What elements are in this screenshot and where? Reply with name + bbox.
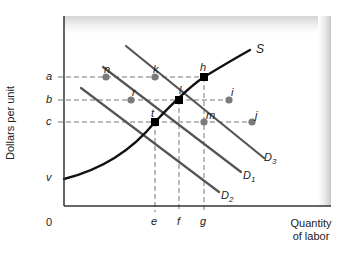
point-label-j: j <box>255 110 257 121</box>
point-label-m: m <box>206 110 215 121</box>
demand-d1-letter: D <box>243 169 251 181</box>
demand-d3-subscript: 3 <box>272 157 276 166</box>
x-axis-title-line2: of labor <box>285 230 337 243</box>
axes <box>64 16 331 206</box>
point-label-h: h <box>200 62 206 73</box>
point-label-l: l <box>179 85 181 96</box>
x-axis-title: Quantity of labor <box>285 217 337 242</box>
quantity-label-e: e <box>151 216 157 227</box>
point-l <box>175 96 183 104</box>
x-axis-title-line1: Quantity <box>285 217 337 230</box>
point-label-r: r <box>132 87 136 98</box>
quantity-label-f: f <box>177 216 180 227</box>
demand-d2-letter: D <box>221 189 229 201</box>
demand-curve-d3 <box>126 46 264 158</box>
price-label-c: c <box>46 116 52 127</box>
point-label-t: t <box>151 108 154 119</box>
y-axis-title: Dollars per unit <box>4 86 16 160</box>
price-label-a: a <box>46 71 52 82</box>
point-label-n: n <box>104 64 110 75</box>
labor-market-diagram <box>0 0 349 253</box>
point-h <box>200 73 208 81</box>
price-label-b: b <box>46 94 52 105</box>
point-label-k: k <box>153 64 159 75</box>
point-t <box>151 118 159 126</box>
price-label-v: v <box>46 172 52 183</box>
demand-d1-label: D1 <box>243 170 255 184</box>
demand-d1-subscript: 1 <box>251 175 255 184</box>
demand-d3-label: D3 <box>264 152 276 166</box>
supply-curve-label: S <box>256 43 264 55</box>
demand-d2-subscript: 2 <box>229 195 233 204</box>
point-label-i: i <box>231 87 233 98</box>
demand-d2-label: D2 <box>221 190 233 204</box>
demand-d3-letter: D <box>264 151 272 163</box>
origin-label: 0 <box>46 216 52 229</box>
quantity-label-g: g <box>200 216 206 227</box>
